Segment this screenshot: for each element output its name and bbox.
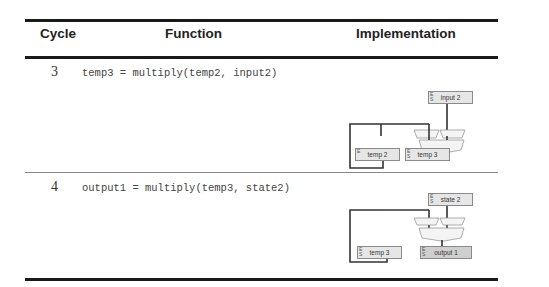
implementation-diagram: ES state 2 ES temp 3 ES output 1 [347,182,477,277]
register-input2: ES input 2 [428,91,473,104]
register-temp3: ES temp 3 [405,148,450,161]
register-temp2: E temp 2 [355,148,400,161]
register-tag: ES [430,92,433,102]
header-bottom-rule [25,56,498,59]
register-tag: ES [422,247,425,257]
function-code: output1 = multiply(temp3, state2) [82,182,290,194]
cycle-number: 4 [51,179,58,195]
register-temp3: ES temp 3 [357,246,402,259]
function-code: temp3 = multiply(temp2, input2) [82,67,277,79]
register-label: state 2 [441,196,461,203]
header-function: Function [165,26,222,41]
table-top-rule [25,19,498,22]
register-tag: ES [407,149,410,159]
header-cycle: Cycle [40,26,76,41]
register-label: temp 3 [418,151,438,158]
register-state2: ES state 2 [428,193,473,206]
register-label: input 2 [441,94,461,101]
register-label: output 1 [434,249,458,256]
cycle-number: 3 [51,64,58,80]
implementation-diagram: ES input 2 E temp 2 ES temp 3 [347,80,477,175]
register-label: temp 3 [370,249,390,256]
register-label: temp 2 [368,151,388,158]
register-tag: E [357,149,360,154]
register-tag: ES [430,194,433,204]
table-bottom-rule [25,278,498,281]
header-implementation: Implementation [356,26,456,41]
register-output1: ES output 1 [420,246,472,259]
register-tag: ES [359,247,362,257]
